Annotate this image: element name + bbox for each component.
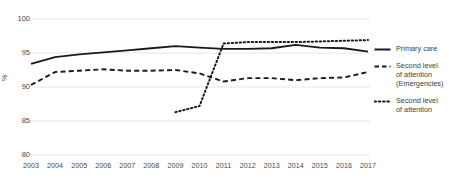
x-tick-label: 2003: [18, 162, 44, 170]
series-line-3: [175, 40, 368, 112]
y-tick-label: 100: [4, 15, 30, 23]
legend-label-line: Primary care: [396, 44, 437, 53]
legend-label-line: Second level: [396, 96, 438, 105]
x-tick-label: 2005: [66, 162, 92, 170]
x-tick-label: 2014: [283, 162, 309, 170]
x-tick-label: 2008: [138, 162, 164, 170]
legend-label: Primary care: [396, 44, 437, 53]
legend-item: Primary care: [374, 44, 449, 54]
x-tick-label: 2017: [355, 162, 381, 170]
x-tick-label: 2004: [42, 162, 68, 170]
x-tick-label: 2015: [307, 162, 333, 170]
x-tick-label: 2006: [90, 162, 116, 170]
x-tick-label: 2013: [259, 162, 285, 170]
x-tick-label: 2010: [187, 162, 213, 170]
x-tick-label: 2011: [211, 162, 237, 170]
chart-legend: Primary careSecond levelof attention(Eme…: [374, 44, 449, 121]
dotted-line-icon: [374, 97, 391, 106]
legend-label-line: of attention: [396, 70, 443, 79]
solid-line-icon: [374, 45, 391, 54]
legend-label: Second levelof attention(Emergencies): [396, 61, 443, 89]
legend-label-line: Second level: [396, 61, 443, 70]
legend-item: Second levelof attention(Emergencies): [374, 61, 449, 89]
gridlines: [29, 19, 370, 155]
y-tick-label: 85: [4, 117, 30, 125]
legend-label-line: of attention: [396, 105, 438, 114]
series-lines: [31, 40, 368, 112]
legend-item: Second levelof attention: [374, 96, 449, 114]
y-tick-label: 80: [4, 151, 30, 159]
legend-label-line: (Emergencies): [396, 79, 443, 88]
y-tick-label: 90: [4, 83, 30, 91]
line-chart: % 10095908580 20032004200520062007200820…: [0, 0, 449, 190]
x-tick-label: 2016: [331, 162, 357, 170]
x-tick-label: 2012: [235, 162, 261, 170]
x-tick-label: 2009: [162, 162, 188, 170]
series-line-2: [31, 69, 368, 85]
series-line-1: [31, 45, 368, 64]
y-tick-label: 95: [4, 49, 30, 57]
x-tick-label: 2007: [114, 162, 140, 170]
dashed-line-icon: [374, 62, 391, 71]
legend-label: Second levelof attention: [396, 96, 438, 114]
